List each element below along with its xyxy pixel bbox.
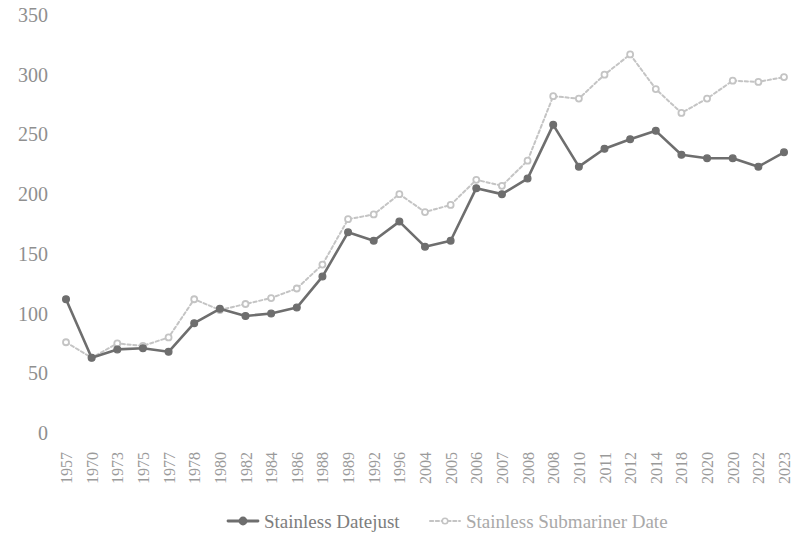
- series-line: [66, 54, 784, 357]
- legend-label: Stainless Datejust: [264, 511, 400, 532]
- x-tick-label: 1975: [135, 452, 152, 484]
- data-point-marker: [627, 51, 633, 57]
- x-tick-label: 2012: [622, 452, 639, 484]
- legend-item-stainless-datejust[interactable]: Stainless Datejust: [228, 511, 400, 532]
- x-tick-label: 2014: [648, 452, 665, 484]
- data-point-marker: [191, 320, 198, 327]
- data-point-marker: [601, 145, 608, 152]
- data-point-marker: [678, 110, 684, 116]
- data-point-marker: [63, 339, 69, 345]
- data-point-marker: [550, 93, 556, 99]
- x-tick-label: 1957: [58, 452, 75, 484]
- x-tick-label: 2023: [776, 452, 793, 484]
- x-tick-label: 1978: [186, 452, 203, 484]
- data-point-marker: [704, 155, 711, 162]
- x-tick-label: 1989: [340, 452, 357, 484]
- data-point-marker: [499, 183, 505, 189]
- legend-item-stainless-submariner-date[interactable]: Stainless Submariner Date: [430, 511, 668, 532]
- x-tick-label: 2020: [699, 452, 716, 484]
- data-point-marker: [729, 155, 736, 162]
- chart-legend: Stainless DatejustStainless Submariner D…: [228, 511, 668, 532]
- x-tick-label: 2010: [571, 452, 588, 484]
- data-point-marker: [678, 151, 685, 158]
- x-tick-label: 2018: [673, 452, 690, 484]
- data-point-marker: [653, 86, 659, 92]
- data-point-marker: [243, 301, 249, 307]
- x-tick-label: 1980: [212, 452, 229, 484]
- y-tick-label: 0: [38, 422, 48, 444]
- data-point-marker: [730, 78, 736, 84]
- y-axis-tick-labels: 050100150200250300350: [18, 4, 48, 444]
- y-tick-label: 200: [18, 183, 48, 205]
- data-point-marker: [575, 163, 582, 170]
- series-line: [66, 125, 784, 358]
- data-point-marker: [602, 72, 608, 78]
- line-chart: 050100150200250300350 195719701973197519…: [0, 0, 800, 541]
- data-point-marker: [396, 191, 402, 197]
- x-tick-label: 2007: [494, 452, 511, 484]
- y-tick-label: 150: [18, 243, 48, 265]
- data-point-marker: [345, 229, 352, 236]
- x-tick-label: 1996: [391, 452, 408, 484]
- x-tick-label: 2008: [545, 452, 562, 484]
- y-tick-label: 100: [18, 303, 48, 325]
- data-point-marker: [370, 237, 377, 244]
- data-point-marker: [319, 273, 326, 280]
- x-tick-label: 2004: [417, 452, 434, 484]
- data-point-marker: [268, 295, 274, 301]
- data-point-marker: [268, 310, 275, 317]
- data-point-marker: [755, 79, 761, 85]
- data-point-marker: [524, 175, 531, 182]
- data-point-marker: [473, 185, 480, 192]
- legend-label: Stainless Submariner Date: [466, 511, 668, 532]
- data-point-marker: [422, 209, 428, 215]
- data-point-marker: [63, 296, 70, 303]
- x-tick-label: 1970: [84, 452, 101, 484]
- data-point-marker: [371, 211, 377, 217]
- data-point-marker: [294, 285, 300, 291]
- x-tick-label: 2022: [750, 452, 767, 484]
- data-point-marker: [216, 305, 223, 312]
- x-tick-label: 1986: [289, 452, 306, 484]
- data-point-marker: [550, 121, 557, 128]
- data-point-marker: [755, 163, 762, 170]
- x-tick-label: 1988: [314, 452, 331, 484]
- x-axis-tick-labels: 1957197019731975197719781980198219841986…: [58, 452, 793, 484]
- data-series-layer: [63, 51, 788, 361]
- y-tick-label: 50: [28, 362, 48, 384]
- x-tick-label: 1973: [109, 452, 126, 484]
- data-point-marker: [114, 346, 121, 353]
- x-tick-label: 2020: [725, 452, 742, 484]
- chart-canvas: 050100150200250300350 195719701973197519…: [0, 0, 800, 541]
- data-point-marker: [781, 74, 787, 80]
- x-tick-label: 1992: [366, 452, 383, 484]
- series-stainless-datejust: [63, 121, 788, 361]
- data-point-marker: [242, 313, 249, 320]
- data-point-marker: [88, 354, 95, 361]
- data-point-marker: [627, 136, 634, 143]
- data-point-marker: [140, 345, 147, 352]
- data-point-marker: [499, 191, 506, 198]
- x-tick-label: 2005: [443, 452, 460, 484]
- series-stainless-submariner-date: [63, 51, 787, 360]
- data-point-marker: [319, 262, 325, 268]
- data-point-marker: [447, 237, 454, 244]
- data-point-marker: [781, 149, 788, 156]
- data-point-marker: [473, 177, 479, 183]
- legend-marker-swatch: [239, 517, 246, 524]
- data-point-marker: [396, 218, 403, 225]
- data-point-marker: [166, 334, 172, 340]
- x-tick-label: 1982: [238, 452, 255, 484]
- x-tick-label: 2011: [597, 452, 614, 483]
- y-tick-label: 350: [18, 4, 48, 26]
- y-tick-label: 300: [18, 64, 48, 86]
- data-point-marker: [165, 348, 172, 355]
- data-point-marker: [293, 304, 300, 311]
- data-point-marker: [525, 158, 531, 164]
- data-point-marker: [704, 96, 710, 102]
- y-tick-label: 250: [18, 123, 48, 145]
- data-point-marker: [422, 243, 429, 250]
- data-point-marker: [652, 127, 659, 134]
- x-tick-label: 2006: [468, 452, 485, 484]
- x-tick-label: 2008: [520, 452, 537, 484]
